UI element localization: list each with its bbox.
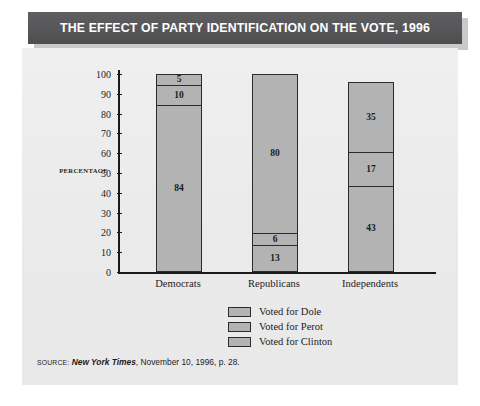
y-axis-tick <box>117 232 122 233</box>
y-axis-tick-label: 40 <box>101 187 111 198</box>
y-axis-tick-label: 80 <box>101 108 111 119</box>
title-banner: THE EFFECT OF PARTY IDENTIFICATION ON TH… <box>28 12 462 44</box>
bar-segment-label: 35 <box>366 113 376 123</box>
y-axis-tick <box>117 252 122 253</box>
bar-segment[interactable]: 5 <box>157 75 201 85</box>
chart-panel: PERCENTAGE 0102030405060708090100 51084D… <box>22 48 458 385</box>
chart-title: THE EFFECT OF PARTY IDENTIFICATION ON TH… <box>28 12 462 44</box>
bar-segment-label: 84 <box>174 184 184 194</box>
x-axis-category-label: Independents <box>315 278 425 289</box>
bar-segment-label: 80 <box>270 149 280 159</box>
legend-swatch <box>228 322 251 332</box>
y-axis-tick <box>117 173 122 174</box>
bar-segment-label: 10 <box>174 91 184 101</box>
bar-segment-label: 43 <box>366 224 376 234</box>
y-axis-tick-label: 20 <box>101 227 111 238</box>
y-axis-title: PERCENTAGE <box>30 167 108 174</box>
legend-item[interactable]: Voted for Dole <box>228 304 332 319</box>
bar-segment[interactable]: 6 <box>253 233 297 245</box>
bar-segment-label: 6 <box>273 235 278 245</box>
x-axis-category-label: Democrats <box>123 278 233 289</box>
legend-item[interactable]: Voted for Clinton <box>228 334 332 349</box>
x-axis-line <box>118 272 436 274</box>
bar-segment[interactable]: 84 <box>157 105 201 271</box>
y-axis-tick-label: 50 <box>101 168 111 179</box>
source-note: SOURCE: New York Times, November 10, 199… <box>37 357 240 367</box>
bar-segment[interactable]: 17 <box>349 152 393 186</box>
bar-segment[interactable]: 80 <box>253 75 297 233</box>
y-axis-tick-label: 10 <box>101 247 111 258</box>
legend-swatch <box>228 337 251 347</box>
bar-segment[interactable]: 35 <box>349 83 393 152</box>
bar-segment-label: 17 <box>366 165 376 175</box>
stacked-bar[interactable]: 351743 <box>348 82 394 272</box>
legend-label: Voted for Perot <box>259 321 323 332</box>
source-publication: New York Times <box>72 357 136 367</box>
y-axis-tick-label: 0 <box>106 267 111 278</box>
y-axis-tick <box>117 193 122 194</box>
legend-label: Voted for Clinton <box>259 336 332 347</box>
stacked-bar[interactable]: 80613 <box>252 74 298 272</box>
y-axis-tick <box>117 94 122 95</box>
legend: Voted for DoleVoted for PerotVoted for C… <box>228 304 332 349</box>
x-axis-category-label: Republicans <box>219 278 329 289</box>
y-axis-tick-label: 90 <box>101 88 111 99</box>
plot-area: PERCENTAGE 0102030405060708090100 51084D… <box>118 74 438 272</box>
legend-label: Voted for Dole <box>259 306 321 317</box>
source-details: , November 10, 1996, p. 28. <box>136 357 240 367</box>
figure-root: THE EFFECT OF PARTY IDENTIFICATION ON TH… <box>0 0 480 406</box>
y-axis-tick <box>117 114 122 115</box>
y-axis-tick <box>117 74 122 75</box>
y-axis-tick-label: 100 <box>96 69 111 80</box>
source-keyword: SOURCE: <box>37 359 69 366</box>
legend-swatch <box>228 307 251 317</box>
y-axis-tick-label: 30 <box>101 207 111 218</box>
y-axis-tick <box>117 213 122 214</box>
y-axis-tick <box>117 153 122 154</box>
bar-segment-label: 5 <box>177 75 182 85</box>
bar-segment[interactable]: 13 <box>253 245 297 271</box>
y-axis-tick <box>117 133 122 134</box>
bar-segment[interactable]: 43 <box>349 186 393 271</box>
y-axis-line <box>118 70 120 274</box>
legend-item[interactable]: Voted for Perot <box>228 319 332 334</box>
stacked-bar[interactable]: 51084 <box>156 74 202 272</box>
bar-segment[interactable]: 10 <box>157 85 201 105</box>
y-axis-tick-label: 60 <box>101 148 111 159</box>
bar-segment-label: 13 <box>270 254 280 264</box>
y-axis-tick <box>117 272 122 273</box>
y-axis-tick-label: 70 <box>101 128 111 139</box>
